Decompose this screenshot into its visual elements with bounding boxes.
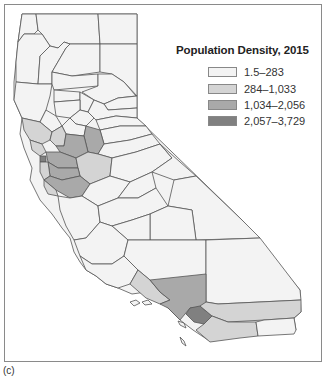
county-san-francisco xyxy=(40,156,46,162)
legend-item: 1,034–2,056 xyxy=(208,99,305,111)
legend-label: 284–1,033 xyxy=(244,83,296,95)
county-san-bernardino xyxy=(206,238,301,304)
channel-island xyxy=(180,337,186,346)
figure-caption: (c) xyxy=(3,365,15,376)
county-modoc xyxy=(98,14,137,44)
california-county-map xyxy=(0,0,332,379)
map-legend: Population Density, 2015 1.5–283 284–1,0… xyxy=(176,44,326,56)
legend-item: 1.5–283 xyxy=(208,66,284,78)
legend-label: 1,034–2,056 xyxy=(244,99,305,111)
county-tulare xyxy=(150,206,196,240)
county-imperial xyxy=(256,318,296,336)
legend-item: 284–1,033 xyxy=(208,83,296,95)
legend-swatch xyxy=(208,116,237,126)
legend-swatch xyxy=(208,100,237,110)
legend-title: Population Density, 2015 xyxy=(176,44,326,56)
channel-island xyxy=(130,300,140,306)
legend-label: 2,057–3,729 xyxy=(244,115,305,127)
legend-swatch xyxy=(208,84,237,94)
legend-label: 1.5–283 xyxy=(244,66,284,78)
legend-swatch xyxy=(208,67,237,77)
legend-item: 2,057–3,729 xyxy=(208,115,305,127)
channel-island xyxy=(142,300,152,305)
